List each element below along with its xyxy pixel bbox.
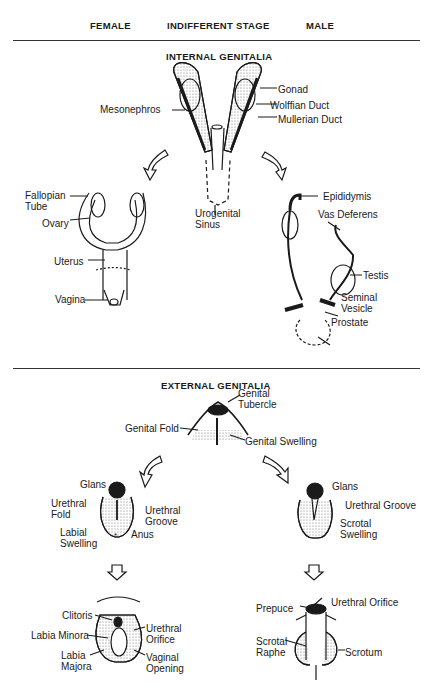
svg-text:*: * (114, 531, 117, 540)
female-final-drawing (87, 597, 145, 662)
label-urethral-orifice-male: Urethral Orifice (331, 597, 398, 608)
label-gonad: Gonad (278, 84, 308, 95)
male-mid-drawing (298, 483, 332, 538)
label-genital-fold: Genital Fold (125, 423, 179, 434)
arrow-to-male-internal (262, 152, 286, 180)
indifferent-internal-drawing (172, 63, 277, 215)
label-uterus: Uterus (54, 256, 83, 267)
label-mesonephros: Mesonephros (100, 104, 161, 115)
label-scrotum: Scrotum (345, 647, 382, 658)
label-clitoris: Clitoris (62, 610, 93, 621)
label-prepuce: Prepuce (256, 603, 293, 614)
label-glans-male: Glans (332, 481, 358, 492)
label-urogenital-sinus: Urogenital Sinus (195, 208, 241, 230)
label-mullerian-duct: Mullerian Duct (278, 114, 342, 125)
label-epididymis: Epididymis (323, 191, 371, 202)
label-urethral-fold: Urethral Fold (51, 498, 87, 520)
label-urethral-groove-female: Urethral Groove (145, 505, 181, 527)
female-mid-drawing: * (101, 482, 134, 540)
label-testis: Testis (363, 270, 389, 281)
arrow-down-female (108, 565, 126, 580)
label-vaginal-opening: Vaginal Opening (146, 652, 184, 674)
label-labial-swelling: Labial Swelling (60, 527, 97, 549)
label-genital-tubercle: Genital Tubercle (238, 388, 277, 410)
label-seminal-vesicle: Seminal Vesicle (341, 292, 377, 314)
label-scrotal-swelling: Scrotal Swelling (340, 518, 377, 540)
label-wolffian-duct: Wolffian Duct (270, 100, 329, 111)
label-prostate: Prostate (331, 317, 368, 328)
label-ovary: Ovary (42, 218, 69, 229)
arrow-down-male (305, 565, 323, 580)
label-vas-deferens: Vas Deferens (318, 209, 378, 220)
label-vagina: Vagina (55, 294, 85, 305)
label-labia-majora: Labia Majora (61, 650, 92, 672)
label-glans-female: Glans (80, 479, 106, 490)
label-urethral-orifice-female: Urethral Orifice (146, 623, 182, 645)
label-urethral-groove-male: Urethral Groove (345, 500, 416, 511)
label-fallopian-tube: Fallopian Tube (25, 190, 66, 212)
label-scrotal-raphe: Scrotal Raphe (256, 636, 287, 658)
label-genital-swelling: Genital Swelling (245, 436, 317, 447)
arrow-to-female-internal (144, 150, 168, 180)
label-labia-minora: Labia Minora (31, 630, 89, 641)
male-final-drawing (285, 598, 345, 680)
anatomy-drawings: * (0, 0, 436, 696)
label-anus: Anus (131, 529, 154, 540)
arrow-to-male-external (263, 456, 288, 483)
female-internal-drawing (70, 193, 146, 305)
arrow-to-female-external (140, 456, 162, 487)
